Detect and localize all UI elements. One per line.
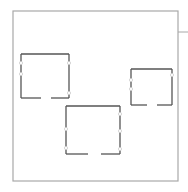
window-marker-icon: [118, 129, 121, 132]
window-marker-icon: [118, 112, 121, 115]
window-marker-icon: [64, 127, 67, 130]
window-marker-icon: [19, 72, 22, 75]
window-marker-icon: [170, 73, 173, 76]
rooms-group: [19, 54, 173, 154]
room-3: [129, 69, 173, 105]
room-1: [19, 54, 70, 98]
window-marker-icon: [67, 91, 70, 94]
window-marker-icon: [118, 147, 121, 150]
floor-plan-diagram: [0, 0, 188, 192]
window-marker-icon: [129, 87, 132, 90]
room-2: [64, 106, 121, 154]
window-marker-icon: [129, 78, 132, 81]
outer-boundary: [13, 11, 178, 181]
window-marker-icon: [19, 61, 22, 64]
window-marker-icon: [64, 146, 67, 149]
window-marker-icon: [67, 61, 70, 64]
